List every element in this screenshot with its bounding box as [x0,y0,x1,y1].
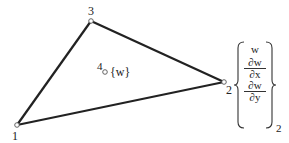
node-4-marker [103,70,108,75]
dof-dw-dy: ∂w ∂y [244,80,266,103]
dof-dw-dx: ∂w ∂x [244,57,266,80]
node-3-marker [89,19,94,24]
right-brace [266,42,276,128]
node-1-label: 1 [12,130,18,142]
node-4-label: 4 [97,60,103,72]
node-4-dof: {w} [110,66,130,78]
edge-1-3 [17,21,91,125]
node-2-dof-vector: w ∂w ∂x ∂w ∂y [244,44,266,103]
vector-subscript: 2 [276,122,282,134]
node-2-label: 2 [226,84,232,96]
edge-2-1 [17,82,224,125]
node-3-label: 3 [88,5,94,17]
node-1-marker [15,123,20,128]
dof-w: w [251,43,259,55]
left-brace [234,42,244,128]
triangle-element-diagram: 1 3 2 4 {w} w ∂w ∂x ∂w ∂y 2 [0,0,289,143]
